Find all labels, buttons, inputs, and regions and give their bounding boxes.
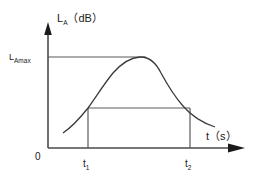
tick-label-t1-sub: 1 (86, 164, 90, 171)
diagram-canvas: LA（dB） t（s） LAmax 0 t1 t2 (0, 0, 279, 179)
x-axis-arrow-icon (228, 144, 245, 153)
x-axis-label-unit: （s） (209, 130, 237, 142)
sound-level-curve (63, 57, 215, 133)
tick-label-t1: t1 (83, 158, 90, 171)
y-axis-label-unit: （dB） (67, 12, 102, 24)
lamax-label: LAmax (9, 52, 31, 64)
x-axis-label: t（s） (206, 130, 237, 142)
tick-label-t2-sub: 2 (188, 164, 192, 171)
lamax-label-sub: Amax (14, 57, 31, 64)
sound-level-time-diagram: LA（dB） t（s） LAmax 0 t1 t2 (0, 0, 279, 179)
origin-label: 0 (35, 151, 41, 162)
y-axis-label: LA（dB） (57, 12, 103, 26)
tick-label-t2: t2 (185, 158, 192, 171)
y-axis-arrow-icon (44, 22, 52, 35)
